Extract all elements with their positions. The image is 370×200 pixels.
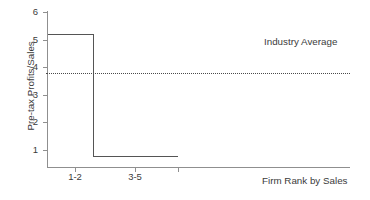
series-segment: [93, 156, 178, 157]
x-axis-title: Firm Rank by Sales: [262, 176, 347, 186]
x-tick-label: 1-2: [45, 172, 105, 182]
y-tick-mark: [43, 95, 47, 96]
y-tick-mark: [43, 122, 47, 123]
y-axis-title: Pre-tax Profits/Sales: [26, 6, 36, 166]
x-tick-mark: [178, 168, 179, 172]
chart-figure: 654321 1-23-5 Industry Average Firm Rank…: [0, 0, 370, 200]
industry-average-annotation: Industry Average: [264, 37, 337, 47]
y-tick-mark: [43, 150, 47, 151]
y-tick-mark: [43, 67, 47, 68]
x-axis-line: [47, 167, 350, 168]
industry-average-reference-line: [46, 73, 350, 74]
series-segment: [48, 34, 93, 35]
y-tick-mark: [43, 12, 47, 13]
y-tick-mark: [43, 40, 47, 41]
x-tick-label: 3-5: [105, 172, 165, 182]
series-segment: [93, 34, 94, 157]
